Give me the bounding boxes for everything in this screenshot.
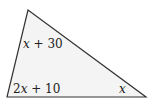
triangle-diagram: x + 30 2x + 10 x: [0, 0, 150, 105]
top-angle-label: x + 30: [23, 37, 63, 51]
bottom-left-angle-label: 2x + 10: [13, 82, 60, 96]
bottom-right-angle-label: x: [119, 82, 126, 96]
